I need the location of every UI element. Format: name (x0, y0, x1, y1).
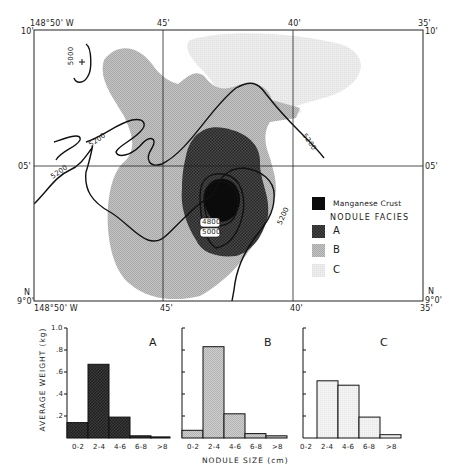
xtick-b-3: 6-8 (250, 443, 262, 451)
coord-top-left: 148°50' W (30, 19, 74, 28)
legend-c-label: C (333, 264, 340, 275)
xtick-a-1: 2-4 (93, 443, 105, 451)
xtick-a-2: 4-6 (114, 443, 126, 451)
xtick-a-3: 6-8 (135, 443, 147, 451)
coord-right-n: N (428, 287, 434, 296)
ytick-1-0: 1.0 (51, 324, 63, 332)
coord-right-05: 05' (425, 162, 438, 171)
chart-a-letter: A (149, 336, 157, 349)
ytick-0-2: .2 (56, 412, 63, 420)
xtick-c-4: >8 (386, 443, 397, 451)
xtick-b-1: 2-4 (208, 443, 220, 451)
coord-left-n: N (24, 288, 30, 297)
ytick-0-4: .4 (56, 390, 63, 398)
legend-swatch-a (312, 225, 325, 238)
ytick-0-6: .6 (56, 368, 63, 376)
contour-label-4800: 4800 (202, 218, 221, 226)
ytick-0-8: .8 (56, 346, 63, 354)
coord-top-45: 45' (157, 19, 170, 28)
coord-right-10: 10' (425, 27, 438, 36)
legend-swatch-b (312, 244, 325, 257)
x-axis-label: NODULE SIZE (cm) (202, 456, 289, 465)
chart-c-letter: C (380, 336, 388, 349)
xtick-b-2: 4-6 (229, 443, 241, 451)
sounding-marker-icon (79, 59, 85, 65)
xtick-c-2: 4-6 (342, 443, 354, 451)
xtick-c-1: 2-4 (321, 443, 333, 451)
histograms (0, 310, 459, 476)
xtick-c-3: 6-8 (363, 443, 375, 451)
xtick-a-4: >8 (157, 443, 168, 451)
contour-label-5000-nw: 5000 (67, 47, 75, 66)
coord-left-9: 9°0' (17, 297, 34, 306)
legend-b-label: B (333, 244, 340, 255)
xtick-b-4: >8 (272, 443, 283, 451)
y-axis-label: AVERAGE WEIGHT (kg) (38, 327, 47, 431)
legend-swatch-c (312, 264, 325, 277)
coord-top-40: 40' (288, 19, 301, 28)
legend-swatch-crust (312, 197, 325, 210)
legend-heading: NODULE FACIES (330, 213, 409, 222)
chart-b-letter: B (264, 336, 272, 349)
contour-label-5000-center: 5000 (202, 228, 221, 236)
figure: 148°50' W 45' 40' 35' 10' 10' 05' 05' N … (0, 0, 459, 476)
xtick-a-0: 0-2 (72, 443, 84, 451)
xtick-b-0: 0-2 (187, 443, 199, 451)
legend-a-label: A (333, 225, 340, 236)
coord-left-10: 10' (21, 27, 34, 36)
xtick-c-0: 0-2 (300, 443, 312, 451)
coord-left-05: 05' (18, 162, 31, 171)
legend-crust-label: Manganese Crust (333, 199, 401, 208)
